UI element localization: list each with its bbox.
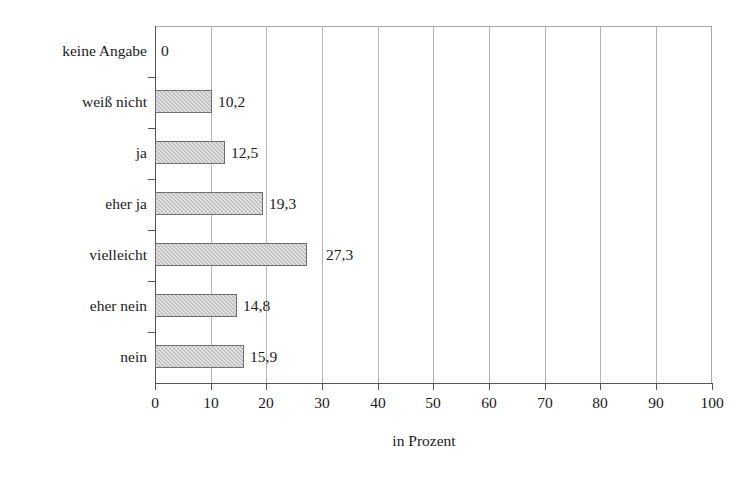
category-label-text: nein (7, 348, 147, 365)
x-tick-label-80: 80 (580, 394, 620, 411)
x-axis-title: in Prozent (364, 432, 484, 450)
gridline-50 (433, 26, 434, 383)
x-tick-label-30: 30 (302, 394, 342, 411)
gridline-70 (545, 26, 546, 383)
category-label-text: vielleicht (7, 246, 147, 263)
gridline-90 (656, 26, 657, 383)
category-label-text: eher nein (7, 297, 147, 314)
category-label-ja: ja (0, 144, 147, 161)
gridline-40 (378, 26, 379, 383)
x-tick-90 (656, 384, 657, 390)
bar-nein (155, 345, 244, 368)
x-tick-30 (322, 384, 323, 390)
x-tick-0 (155, 384, 156, 390)
x-tick-label-50: 50 (413, 394, 453, 411)
y-tick-6 (148, 332, 155, 333)
x-tick-80 (600, 384, 601, 390)
bar-vielleicht (155, 243, 307, 266)
value-label-weiss-nicht: 10,2 (218, 93, 245, 110)
value-label-vielleicht: 27,3 (326, 246, 353, 263)
bar-ja (155, 141, 225, 164)
category-label-text: eher ja (7, 195, 147, 212)
x-tick-label-70: 70 (525, 394, 565, 411)
x-axis-line (155, 383, 713, 384)
category-label-eher-nein: eher nein (0, 297, 147, 314)
category-label-vielleicht: vielleicht (0, 246, 147, 263)
y-tick-3 (148, 179, 155, 180)
bar-weiss-nicht (155, 90, 212, 113)
y-tick-5 (148, 281, 155, 282)
gridline-60 (489, 26, 490, 383)
category-label-eher-ja: eher ja (0, 195, 147, 212)
x-tick-label-40: 40 (358, 394, 398, 411)
category-label-keine-angabe: keine Angabe (0, 42, 147, 59)
x-tick-60 (489, 384, 490, 390)
x-tick-70 (545, 384, 546, 390)
bar-chart: keine Angabe 0 weiß nicht 10,2 ja 12,5 e… (0, 0, 754, 480)
value-label-eher-ja: 19,3 (269, 195, 296, 212)
y-tick-1 (148, 77, 155, 78)
x-tick-label-10: 10 (191, 394, 231, 411)
value-label-keine-angabe: 0 (161, 42, 169, 59)
bar-eher-nein (155, 294, 237, 317)
value-label-ja: 12,5 (231, 144, 258, 161)
gridline-80 (600, 26, 601, 383)
bar-eher-ja (155, 192, 263, 215)
y-tick-4 (148, 230, 155, 231)
category-label-text: weiß nicht (7, 93, 147, 110)
x-tick-label-20: 20 (246, 394, 286, 411)
x-tick-50 (433, 384, 434, 390)
value-label-eher-nein: 14,8 (243, 297, 270, 314)
x-tick-10 (211, 384, 212, 390)
x-tick-label-90: 90 (636, 394, 676, 411)
gridline-30 (322, 26, 323, 383)
x-tick-100 (712, 384, 713, 390)
category-label-text: ja (7, 144, 147, 161)
category-label-nein: nein (0, 348, 147, 365)
x-tick-label-60: 60 (469, 394, 509, 411)
gridline-20 (266, 26, 267, 383)
category-label-text: keine Angabe (7, 42, 147, 59)
x-tick-20 (266, 384, 267, 390)
value-label-nein: 15,9 (250, 348, 277, 365)
x-tick-40 (378, 384, 379, 390)
x-tick-label-0: 0 (135, 394, 175, 411)
category-label-weiss-nicht: weiß nicht (0, 93, 147, 110)
y-tick-2 (148, 128, 155, 129)
x-tick-label-100: 100 (692, 394, 732, 411)
